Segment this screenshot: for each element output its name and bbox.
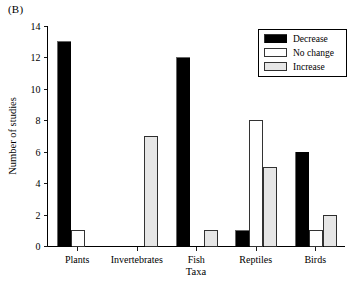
figure-panel-b: (B) Number of studies 02468101214 Plants… (0, 0, 353, 282)
legend-entry-list: DecreaseNo changeIncrease (265, 34, 334, 72)
bar (310, 231, 323, 247)
y-tick-label: 10 (31, 84, 41, 95)
x-axis-category-labels: PlantsInvertebratesFishReptilesBirds (65, 254, 326, 265)
bar-chart: Number of studies 02468101214 PlantsInve… (0, 0, 353, 282)
x-axis-title: Taxa (186, 266, 207, 277)
legend-label: Increase (293, 62, 325, 72)
y-tick-label: 12 (31, 52, 41, 63)
bar-group (145, 136, 158, 246)
y-axis-ticks: 02468101214 (31, 21, 48, 253)
y-tick-label: 6 (36, 147, 41, 158)
bar (72, 231, 85, 247)
legend-label: Decrease (293, 34, 328, 44)
bar (296, 152, 309, 247)
bar (250, 121, 263, 247)
bar-group (177, 58, 218, 247)
x-category-label: Plants (65, 254, 90, 265)
y-tick-label: 4 (36, 178, 41, 189)
y-tick-label: 8 (36, 115, 41, 126)
bar (177, 58, 190, 247)
y-tick-label: 14 (31, 21, 41, 32)
y-axis-title: Number of studies (7, 97, 18, 175)
y-tick-label: 0 (36, 241, 41, 252)
x-category-label: Birds (304, 254, 326, 265)
bar-group (296, 152, 337, 247)
bar-group (58, 42, 85, 247)
bar-group (236, 121, 277, 247)
x-category-label: Reptiles (239, 254, 272, 265)
bar (324, 215, 337, 247)
bar (264, 168, 277, 247)
y-tick-label: 2 (36, 210, 41, 221)
legend-label: No change (293, 48, 334, 58)
legend-swatch (265, 35, 287, 43)
x-category-label: Fish (188, 254, 205, 265)
bar (236, 231, 249, 247)
x-category-label: Invertebrates (111, 254, 163, 265)
legend-swatch (265, 63, 287, 71)
chart-legend: DecreaseNo changeIncrease (259, 30, 347, 77)
bar (58, 42, 71, 247)
bar (205, 231, 218, 247)
x-axis-ticks (78, 247, 316, 251)
bar (145, 136, 158, 246)
legend-swatch (265, 49, 287, 57)
